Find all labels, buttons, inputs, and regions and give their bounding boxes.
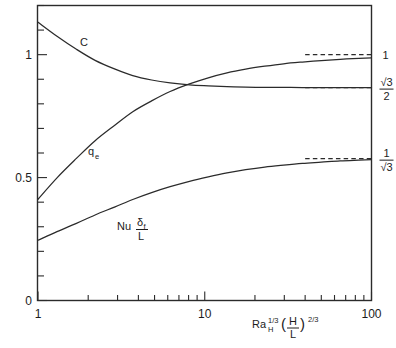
x-axis-label-paren-open: ( xyxy=(281,315,286,332)
asymptote-one-over-sqrt3-label: 1√3 xyxy=(380,147,394,173)
x-tick-label: 100 xyxy=(361,307,381,321)
y-axis-tick-labels: 00.51 xyxy=(15,48,32,308)
curve-label-nu-base: Nu xyxy=(117,220,131,232)
asymptote-sqrt3-over-2-denominator: 2 xyxy=(383,90,389,102)
y-tick-label: 0.5 xyxy=(15,171,32,185)
x-axis-label: Ra H 1/3 ( H L ) 2/3 xyxy=(252,315,318,340)
asymptote-one-over-sqrt3-numerator: 1 xyxy=(383,147,389,159)
x-tick-label: 1 xyxy=(35,307,42,321)
x-axis-tick-labels: 110100 xyxy=(35,307,382,321)
x-axis-label-frac-denominator: L xyxy=(290,328,296,340)
y-tick-label: 0 xyxy=(25,294,32,308)
asymptote-lines xyxy=(305,55,371,159)
x-axis-label-frac-numerator: H xyxy=(289,315,297,327)
asymptote-sqrt3-over-2-numerator: √3 xyxy=(380,76,392,88)
x-axis-label-base-sub: H xyxy=(268,325,273,334)
curve-label-qe-base: q xyxy=(88,145,94,157)
chart-svg: 00.51 110100 1√321√3 C q e Nu δ f L Ra H… xyxy=(0,0,396,348)
curve-label-nu-delta-over-l: Nu δ f L xyxy=(117,216,148,242)
x-axis-label-paren-sup: 2/3 xyxy=(308,315,318,324)
y-axis-ticks xyxy=(38,6,47,301)
right-axis-labels: 1√321√3 xyxy=(380,49,394,172)
curve-Nu_delta_f_over_L xyxy=(38,160,372,241)
x-axis-label-base: Ra xyxy=(252,318,267,330)
x-axis-ticks xyxy=(38,292,372,301)
asymptote-one-label: 1 xyxy=(383,49,389,61)
curve-label-qe-sub: e xyxy=(95,152,99,161)
y-tick-label: 1 xyxy=(25,48,32,62)
curve-label-l-denominator: L xyxy=(138,230,144,242)
x-axis-label-paren-close: ) xyxy=(300,315,305,332)
x-tick-label: 10 xyxy=(198,307,212,321)
x-axis-label-base-sup: 1/3 xyxy=(268,316,278,325)
curve-label-qe: q e xyxy=(88,145,99,161)
curve-label-delta-numerator: δ xyxy=(137,216,143,228)
figure-container: 00.51 110100 1√321√3 C q e Nu δ f L Ra H… xyxy=(0,0,396,348)
asymptote-sqrt3-over-2-label: √32 xyxy=(380,76,394,102)
curve-label-c: C xyxy=(80,36,88,48)
asymptote-one-over-sqrt3-denominator: √3 xyxy=(380,161,392,173)
